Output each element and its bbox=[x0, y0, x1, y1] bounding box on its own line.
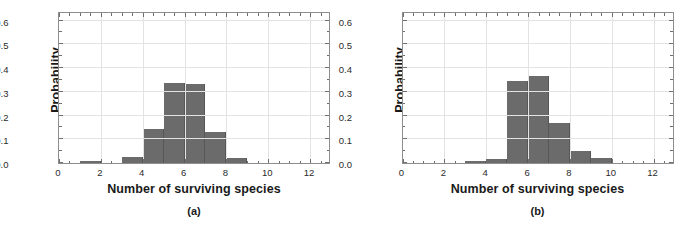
x-tick bbox=[486, 159, 487, 163]
x-tick-top bbox=[413, 13, 414, 16]
y-tick-right bbox=[670, 31, 673, 32]
x-tick-label: 6 bbox=[174, 167, 194, 178]
gridline-vertical bbox=[528, 13, 529, 163]
y-tick bbox=[59, 138, 63, 139]
x-tick-top bbox=[279, 13, 280, 16]
y-tick-right bbox=[669, 20, 673, 21]
x-tick-label: 0 bbox=[392, 167, 412, 178]
x-tick-top bbox=[268, 13, 269, 17]
x-tick bbox=[90, 161, 91, 164]
x-tick bbox=[570, 159, 571, 163]
x-tick bbox=[601, 161, 602, 164]
y-tick-label: 0.3 bbox=[324, 87, 352, 98]
gridline-horizontal bbox=[403, 43, 673, 44]
x-tick-top bbox=[80, 13, 81, 16]
x-tick bbox=[559, 161, 560, 164]
x-tick bbox=[444, 159, 445, 163]
x-tick-top bbox=[289, 13, 290, 16]
x-tick-top bbox=[174, 13, 175, 16]
gridline-vertical bbox=[268, 13, 269, 163]
gridline-horizontal bbox=[59, 20, 329, 21]
y-tick-label: 0.2 bbox=[324, 111, 352, 122]
y-tick-label: 0.6 bbox=[324, 16, 352, 27]
x-tick-top bbox=[185, 13, 186, 17]
y-tick bbox=[403, 31, 406, 32]
bar bbox=[205, 132, 226, 163]
x-axis-title-a: Number of surviving species bbox=[58, 182, 330, 196]
y-tick bbox=[403, 55, 406, 56]
x-tick bbox=[300, 161, 301, 164]
y-tick-label: 0.6 bbox=[0, 16, 9, 27]
x-tick-top bbox=[195, 13, 196, 16]
x-tick-top bbox=[226, 13, 227, 17]
x-tick-top bbox=[465, 13, 466, 16]
y-tick-label: 0.4 bbox=[0, 64, 9, 75]
x-tick bbox=[413, 161, 414, 164]
y-tick bbox=[403, 43, 407, 44]
gridline-horizontal bbox=[59, 43, 329, 44]
x-tick-top bbox=[444, 13, 445, 17]
x-tick-label: 2 bbox=[90, 167, 110, 178]
x-tick-top bbox=[153, 13, 154, 16]
gridline-horizontal bbox=[403, 67, 673, 68]
gridline-horizontal bbox=[403, 20, 673, 21]
y-tick-right bbox=[669, 162, 673, 163]
panel-caption-a: (a) bbox=[58, 205, 330, 217]
y-tick bbox=[59, 55, 62, 56]
x-axis-title-b: Number of surviving species bbox=[402, 182, 674, 196]
x-tick bbox=[143, 159, 144, 163]
y-tick-right bbox=[327, 31, 330, 32]
y-tick-label: 0.2 bbox=[0, 111, 9, 122]
x-tick-top bbox=[434, 13, 435, 16]
x-tick bbox=[434, 161, 435, 164]
gridline-horizontal bbox=[403, 115, 673, 116]
x-tick-label: 12 bbox=[299, 167, 319, 178]
y-tick-right bbox=[670, 55, 673, 56]
x-tick-label: 12 bbox=[643, 167, 663, 178]
x-tick-top bbox=[486, 13, 487, 17]
gridline-horizontal bbox=[59, 115, 329, 116]
bar bbox=[164, 83, 185, 163]
x-tick-top bbox=[132, 13, 133, 16]
x-tick bbox=[185, 159, 186, 163]
panel-b: Probability 0.00.10.20.30.40.50.6 024681… bbox=[344, 0, 687, 231]
x-tick bbox=[591, 161, 592, 164]
x-tick bbox=[153, 161, 154, 164]
y-tick bbox=[403, 150, 406, 151]
y-tick-right bbox=[669, 91, 673, 92]
y-tick bbox=[59, 31, 62, 32]
bar bbox=[549, 123, 570, 163]
x-tick bbox=[69, 161, 70, 164]
x-tick bbox=[164, 161, 165, 164]
y-tick-right bbox=[327, 55, 330, 56]
x-tick bbox=[247, 161, 248, 164]
x-tick-label: 8 bbox=[215, 167, 235, 178]
gridline-vertical bbox=[226, 13, 227, 163]
y-tick bbox=[403, 162, 407, 163]
x-tick-label: 10 bbox=[601, 167, 621, 178]
x-tick bbox=[279, 161, 280, 164]
y-tick bbox=[403, 126, 406, 127]
gridline-vertical bbox=[444, 13, 445, 163]
x-tick-top bbox=[476, 13, 477, 16]
gridline-horizontal bbox=[59, 91, 329, 92]
y-tick bbox=[59, 20, 63, 21]
y-tick bbox=[403, 20, 407, 21]
x-tick-top bbox=[247, 13, 248, 16]
x-tick-top bbox=[549, 13, 550, 16]
x-tick bbox=[216, 161, 217, 164]
y-tick-right bbox=[327, 79, 330, 80]
y-tick-label: 0.0 bbox=[324, 159, 352, 170]
y-tick-right bbox=[669, 138, 673, 139]
x-tick-label: 8 bbox=[559, 167, 579, 178]
x-tick-top bbox=[507, 13, 508, 16]
gridline-horizontal bbox=[59, 67, 329, 68]
y-tick-right bbox=[327, 126, 330, 127]
gridline-vertical bbox=[310, 13, 311, 163]
x-tick bbox=[237, 161, 238, 164]
figure-two-histograms: Probability 0.00.10.20.30.40.50.6 024681… bbox=[0, 0, 687, 231]
x-tick bbox=[195, 161, 196, 164]
x-tick-top bbox=[101, 13, 102, 17]
x-tick bbox=[321, 161, 322, 164]
x-tick-top bbox=[580, 13, 581, 16]
